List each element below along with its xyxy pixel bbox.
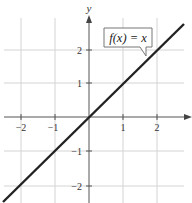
function-callout: f(x) = x — [104, 28, 152, 56]
x-tick-label: −1 — [48, 122, 59, 133]
y-tick-label: −1 — [71, 146, 82, 157]
x-tick-label: 2 — [155, 122, 160, 133]
y-axis-label: y — [86, 2, 92, 14]
x-tick-label: 1 — [121, 122, 126, 133]
y-tick-label: −2 — [71, 181, 82, 192]
chart: −2 −1 1 2 2 1 −1 −2 y f(x) = x — [0, 0, 192, 203]
x-axis-arrow-icon — [184, 114, 192, 120]
y-axis-arrow-icon — [86, 15, 92, 23]
y-tick-label: 1 — [77, 78, 82, 89]
callout-label: f(x) = x — [109, 31, 147, 45]
y-tick-label: 2 — [77, 45, 82, 56]
x-tick-label: −2 — [16, 122, 27, 133]
